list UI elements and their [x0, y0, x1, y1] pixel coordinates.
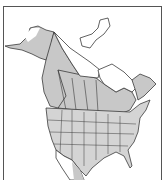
arctic-islands: [80, 18, 110, 48]
labrador: [132, 74, 156, 100]
range-map: [0, 0, 165, 180]
